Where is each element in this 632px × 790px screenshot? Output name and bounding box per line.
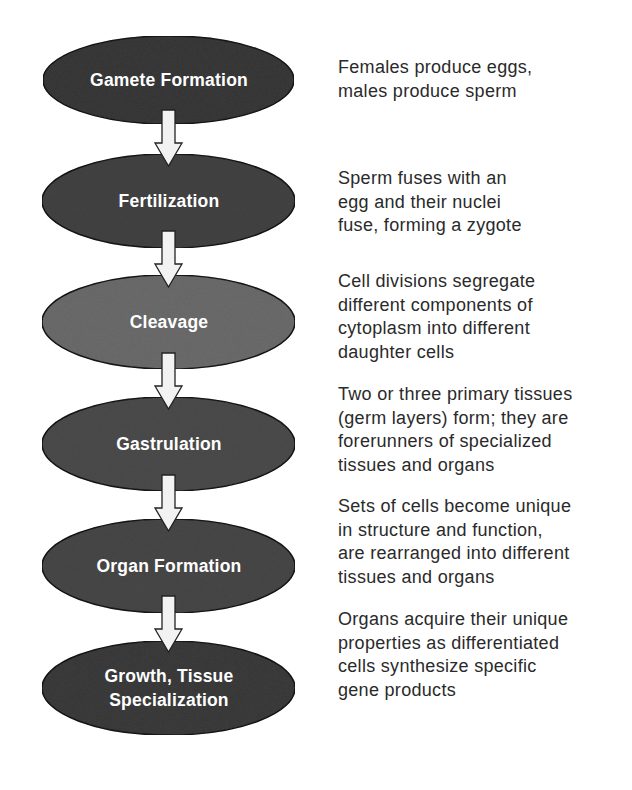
stage-label-gamete-formation: Gamete Formation — [43, 68, 295, 92]
stage-label-line: Fertilization — [119, 191, 220, 211]
description-line: Organs acquire their unique — [338, 608, 628, 632]
description-line: are rearranged into different — [338, 542, 628, 566]
description-gamete-formation: Females produce eggs, males produce sper… — [338, 56, 628, 103]
description-line: properties as differentiated — [338, 632, 628, 656]
stage-label-line: Gamete Formation — [90, 70, 248, 90]
description-line: cells synthesize specific — [338, 655, 628, 679]
stage-label-growth-specialization: Growth, Tissue Specialization — [43, 664, 295, 712]
description-line: Two or three primary tissues — [338, 383, 628, 407]
description-line: cytoplasm into different — [338, 317, 628, 341]
description-line: tissues and organs — [338, 566, 628, 590]
description-fertilization: Sperm fuses with an egg and their nuclei… — [338, 167, 628, 238]
stage-label-line: Growth, Tissue — [43, 664, 295, 688]
stage-label-line: Cleavage — [130, 312, 208, 332]
description-cleavage: Cell divisions segregate different compo… — [338, 270, 628, 364]
stage-label-fertilization: Fertilization — [43, 189, 295, 213]
description-line: in structure and function, — [338, 519, 628, 543]
description-line: gene products — [338, 679, 628, 703]
description-gastrulation: Two or three primary tissues (germ layer… — [338, 383, 628, 477]
stage-label-line: Organ Formation — [97, 556, 242, 576]
description-line: egg and their nuclei — [338, 191, 628, 215]
description-organ-formation: Sets of cells become unique in structure… — [338, 495, 628, 589]
description-line: Cell divisions segregate — [338, 270, 628, 294]
description-line: (germ layers) form; they are — [338, 407, 628, 431]
description-line: Sperm fuses with an — [338, 167, 628, 191]
description-line: forerunners of specialized — [338, 430, 628, 454]
description-line: fuse, forming a zygote — [338, 214, 628, 238]
stage-label-line: Specialization — [43, 688, 295, 712]
stage-label-line: Gastrulation — [116, 434, 221, 454]
description-growth-specialization: Organs acquire their unique properties a… — [338, 608, 628, 702]
description-line: tissues and organs — [338, 454, 628, 478]
description-line: Females produce eggs, — [338, 56, 628, 80]
stage-label-organ-formation: Organ Formation — [43, 554, 295, 578]
description-line: daughter cells — [338, 341, 628, 365]
description-line: Sets of cells become unique — [338, 495, 628, 519]
stage-label-cleavage: Cleavage — [43, 310, 295, 334]
description-line: males produce sperm — [338, 80, 628, 104]
stage-label-gastrulation: Gastrulation — [43, 432, 295, 456]
description-line: different components of — [338, 294, 628, 318]
